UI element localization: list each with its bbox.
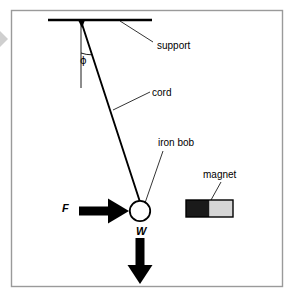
page-edge-marker-icon [0, 31, 8, 47]
iron-bob-circle [130, 201, 150, 221]
label-support: support [157, 41, 190, 51]
physics-diagram-figure: support cord iron bob magnet ϕ F W [0, 0, 289, 298]
label-force-f: F [62, 203, 69, 214]
label-cord: cord [152, 88, 171, 98]
diagram-canvas [0, 0, 289, 298]
label-magnet: magnet [203, 170, 236, 180]
magnet-bar [186, 200, 233, 217]
figure-frame [12, 11, 283, 287]
label-weight-w: W [136, 226, 146, 237]
label-iron-bob: iron bob [158, 138, 194, 148]
label-angle-phi: ϕ [80, 56, 87, 66]
